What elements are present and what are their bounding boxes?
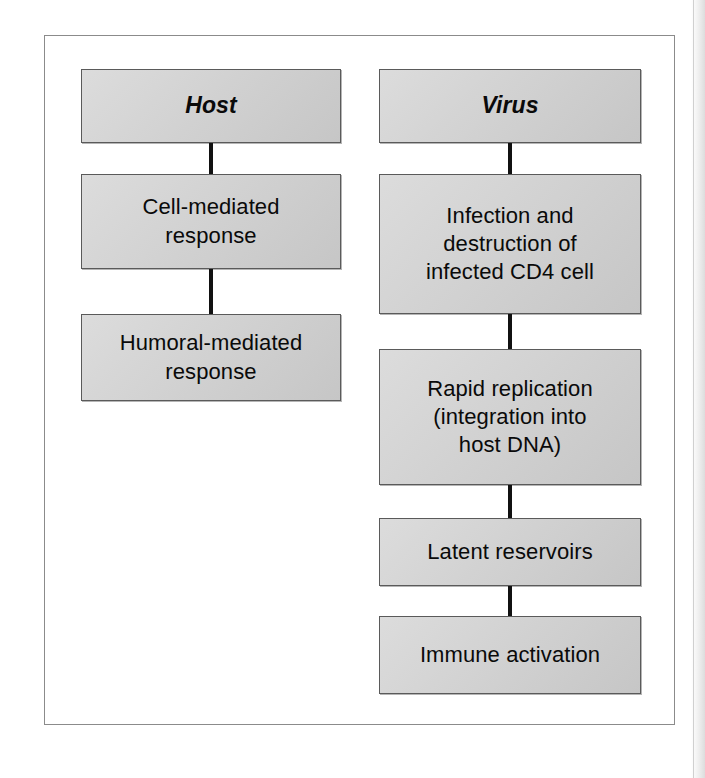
node-host-header-label: Host: [185, 91, 237, 120]
connector-infection-to-rapid-replication: [508, 314, 512, 349]
node-rapid-replication-label: Rapid replication (integration into host…: [427, 375, 593, 459]
node-humoral-mediated-response-label: Humoral-mediated response: [120, 329, 303, 385]
node-infection-destruction-cd4-label: Infection and destruction of infected CD…: [426, 202, 594, 286]
connector-host-to-cell-mediated: [209, 143, 213, 174]
connector-latent-to-immune-activation: [508, 586, 512, 616]
node-latent-reservoirs[interactable]: Latent reservoirs: [379, 518, 641, 586]
node-virus-header[interactable]: Virus: [379, 69, 641, 143]
figure-frame: Host Cell-mediated response Humoral-medi…: [44, 35, 675, 725]
node-virus-header-label: Virus: [481, 91, 538, 120]
connector-rapid-replication-to-latent: [508, 485, 512, 518]
node-cell-mediated-response-label: Cell-mediated response: [142, 193, 279, 249]
node-host-header[interactable]: Host: [81, 69, 341, 143]
node-infection-destruction-cd4[interactable]: Infection and destruction of infected CD…: [379, 174, 641, 314]
connector-virus-to-infection: [508, 143, 512, 174]
connector-cell-mediated-to-humoral: [209, 269, 213, 314]
node-immune-activation[interactable]: Immune activation: [379, 616, 641, 694]
node-immune-activation-label: Immune activation: [420, 641, 600, 669]
node-rapid-replication[interactable]: Rapid replication (integration into host…: [379, 349, 641, 485]
node-latent-reservoirs-label: Latent reservoirs: [427, 538, 593, 566]
node-humoral-mediated-response[interactable]: Humoral-mediated response: [81, 314, 341, 401]
page-edge-line: [693, 0, 694, 778]
node-cell-mediated-response[interactable]: Cell-mediated response: [81, 174, 341, 269]
